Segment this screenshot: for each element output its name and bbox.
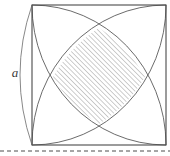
side-dimension-arc: [20, 5, 32, 145]
lens-hatch-fill: [53, 28, 145, 124]
figure-canvas: a: [0, 0, 170, 156]
side-length-label: a: [12, 65, 19, 80]
geometry-figure: a: [0, 0, 170, 156]
shaded-lens-region: [53, 28, 145, 124]
